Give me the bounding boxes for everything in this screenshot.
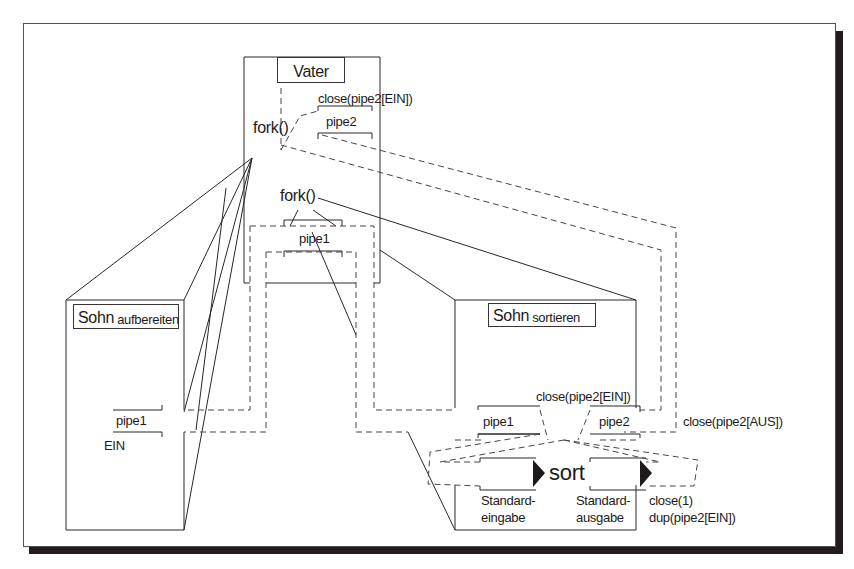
father-pipe1-label: pipe1: [299, 232, 329, 245]
child-sort-close-pipe2-ein-label: close(pipe2[EIN]): [536, 390, 631, 403]
outer-frame: [24, 24, 836, 547]
frame-shadow-right: [836, 31, 843, 553]
father-title-box: Vater: [277, 57, 345, 83]
child-sort-title-sub: sortieren: [532, 311, 580, 324]
stdin-label-line1: Standard-: [481, 494, 535, 507]
stdout-label-line2: ausgabe: [576, 511, 624, 524]
father-fork-top-label: fork(): [253, 120, 289, 136]
father-title: Vater: [293, 64, 329, 80]
dup-pipe2-ein-label: dup(pipe2[EIN]): [649, 511, 736, 524]
close1-label: close(1): [649, 494, 693, 507]
child-prepare-ein-label: EIN: [104, 439, 125, 452]
child-prepare-title-box: Sohn aufbereiten: [73, 304, 179, 329]
child-sort-close-pipe2-aus-label: close(pipe2[AUS]): [683, 415, 783, 428]
diagram-canvas: Vater close(pipe2[EIN]) pipe2 fork() for…: [0, 0, 854, 569]
father-fork-mid-label: fork(): [280, 188, 316, 204]
child-sort-pipe2-label: pipe2: [599, 415, 629, 428]
child-sort-pipe1-label: pipe1: [483, 415, 513, 428]
sort-program-label: sort: [549, 462, 584, 484]
stdin-label-line2: eingabe: [481, 511, 525, 524]
child-prepare-title-sub: aufbereiten: [117, 313, 179, 326]
stdout-label-line1: Standard-: [576, 494, 630, 507]
child-sort-title-box: Sohn sortieren: [488, 303, 596, 327]
father-close-pipe2-label: close(pipe2[EIN]): [318, 92, 413, 105]
frame-shadow-bottom: [29, 547, 843, 554]
child-sort-title-main: Sohn: [493, 308, 529, 324]
child-prepare-title-main: Sohn: [78, 310, 114, 326]
child-prepare-pipe1-label: pipe1: [116, 414, 146, 427]
diagram-lines: [0, 0, 854, 569]
father-pipe2-label: pipe2: [326, 115, 356, 128]
